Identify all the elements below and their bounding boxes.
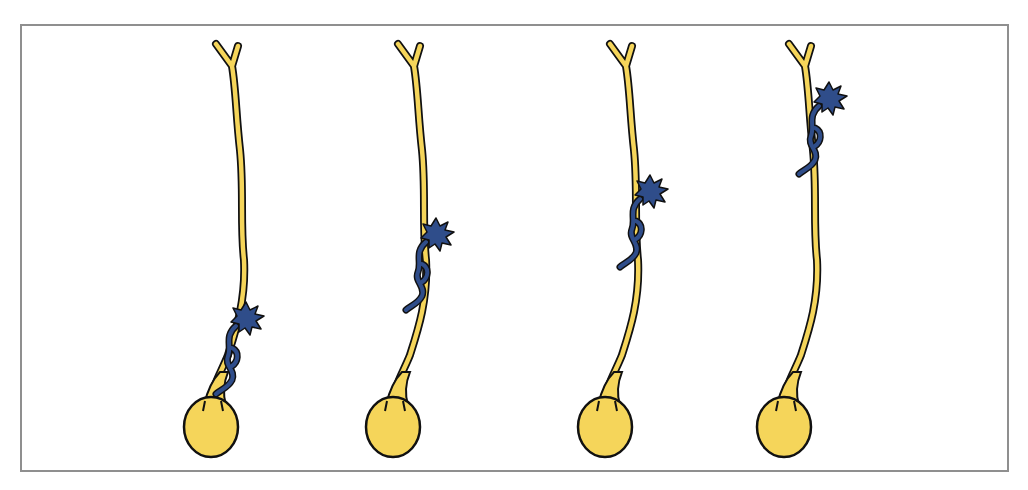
panel-3 xyxy=(578,44,668,457)
neuron-migration-diagram xyxy=(0,0,1028,490)
panel-4 xyxy=(757,44,847,457)
panel-1 xyxy=(184,44,264,457)
neuron xyxy=(578,44,638,457)
neuron xyxy=(757,44,817,457)
migrating-cell xyxy=(620,175,668,267)
panel-2 xyxy=(366,44,454,457)
